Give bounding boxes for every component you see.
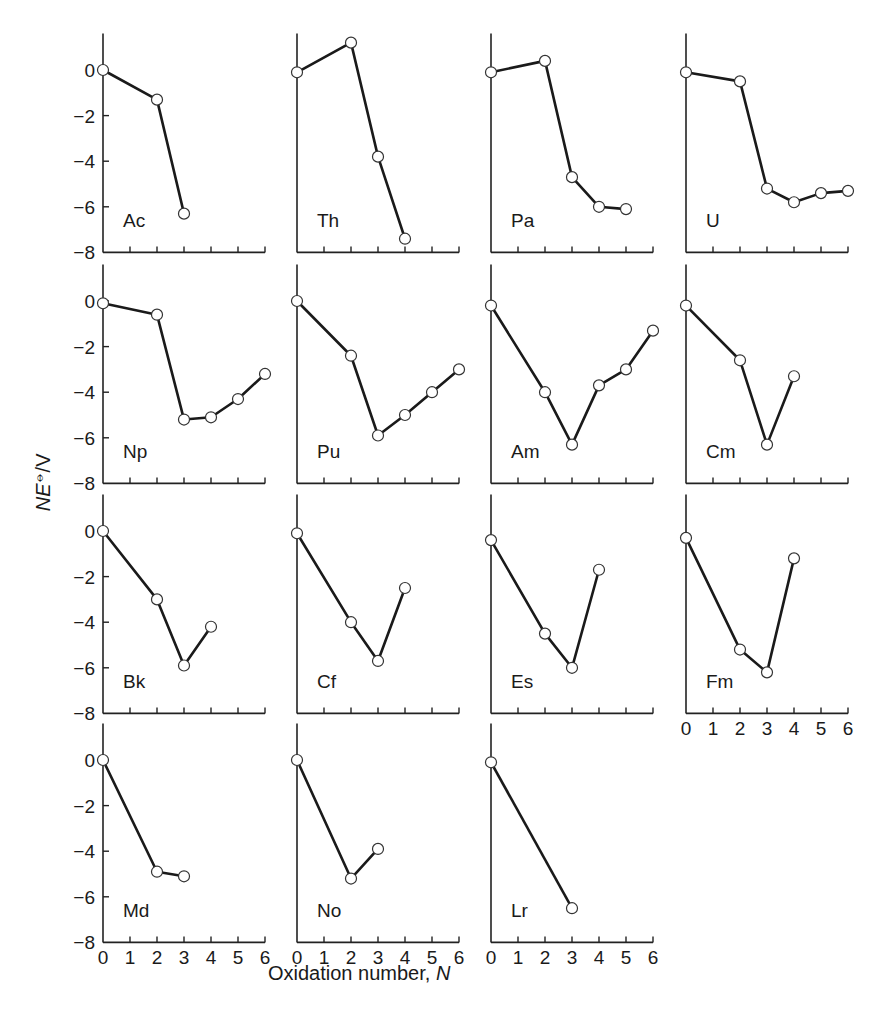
- data-point: [292, 755, 303, 766]
- panel-lr: 0123456Lr: [486, 724, 659, 969]
- data-point: [454, 364, 465, 375]
- panel-u: U: [681, 34, 854, 253]
- element-label: Np: [123, 441, 147, 462]
- x-tick-label: 2: [152, 947, 163, 968]
- panel-cf: Cf: [292, 495, 460, 714]
- data-point: [152, 94, 163, 105]
- panel-bk: 0−2−4−6−8Bk: [73, 495, 265, 725]
- x-tick-label: 0: [486, 947, 497, 968]
- x-tick-label: 3: [762, 718, 773, 739]
- panel-pa: Pa: [486, 34, 654, 253]
- x-tick-label: 6: [454, 947, 465, 968]
- panel-ac: 0−2−4−6−8Ac: [73, 34, 265, 264]
- data-point: [486, 757, 497, 768]
- data-point: [594, 201, 605, 212]
- data-point: [540, 55, 551, 66]
- data-point: [400, 583, 411, 594]
- data-point: [843, 185, 854, 196]
- data-point: [735, 76, 746, 87]
- data-point: [260, 368, 271, 379]
- data-point: [762, 183, 773, 194]
- data-point: [648, 325, 659, 336]
- data-point: [206, 412, 217, 423]
- element-label: Pu: [317, 441, 340, 462]
- data-point: [486, 535, 497, 546]
- series-line: [103, 70, 184, 214]
- data-point: [98, 526, 109, 537]
- y-tick-label: −6: [73, 428, 95, 449]
- panel-th: Th: [292, 34, 460, 253]
- panel-np: 0−2−4−6−8Np: [73, 265, 270, 495]
- series-line: [297, 760, 378, 879]
- x-tick-label: 1: [125, 947, 136, 968]
- panel-md: 0−2−4−6−80123456Md: [73, 724, 270, 969]
- data-point: [98, 65, 109, 76]
- element-label: Ac: [123, 210, 145, 231]
- y-tick-label: −6: [73, 658, 95, 679]
- y-tick-label: −4: [73, 841, 95, 862]
- data-point: [735, 644, 746, 655]
- data-point: [789, 553, 800, 564]
- data-point: [292, 528, 303, 539]
- series-line: [491, 306, 653, 445]
- data-point: [346, 350, 357, 361]
- series-line: [686, 306, 794, 445]
- series-line: [297, 301, 459, 436]
- data-point: [621, 204, 632, 215]
- data-point: [373, 151, 384, 162]
- data-point: [373, 430, 384, 441]
- x-tick-label: 1: [513, 947, 524, 968]
- data-point: [179, 208, 190, 219]
- series-line: [491, 540, 599, 668]
- data-point: [762, 439, 773, 450]
- x-tick-label: 5: [816, 718, 827, 739]
- y-tick-label: 0: [84, 291, 95, 312]
- y-axis-label: NE⦵/V: [31, 453, 56, 511]
- y-tick-label: −2: [73, 106, 95, 127]
- data-point: [540, 628, 551, 639]
- y-tick-label: −4: [73, 612, 95, 633]
- y-tick-label: −2: [73, 796, 95, 817]
- data-point: [681, 532, 692, 543]
- x-axis-label: Oxidation number, N: [268, 962, 450, 985]
- frost-diagram-grid: 0−2−4−6−8AcThPaU0−2−4−6−8NpPuAmCm0−2−4−6…: [0, 0, 877, 1028]
- x-tick-label: 2: [540, 947, 551, 968]
- data-point: [373, 843, 384, 854]
- y-tick-label: 0: [84, 521, 95, 542]
- y-tick-label: 0: [84, 750, 95, 771]
- element-label: Pa: [511, 210, 535, 231]
- data-point: [681, 300, 692, 311]
- y-tick-label: −8: [73, 932, 95, 953]
- element-label: Lr: [511, 900, 529, 921]
- x-tick-label: 0: [98, 947, 109, 968]
- data-point: [179, 660, 190, 671]
- element-label: Md: [123, 900, 149, 921]
- x-tick-label: 0: [681, 718, 692, 739]
- data-point: [346, 873, 357, 884]
- element-label: No: [317, 900, 341, 921]
- x-tick-label: 1: [708, 718, 719, 739]
- y-tick-label: 0: [84, 60, 95, 81]
- data-point: [567, 662, 578, 673]
- panel-am: Am: [486, 265, 659, 484]
- data-point: [206, 621, 217, 632]
- element-label: U: [706, 210, 720, 231]
- data-point: [292, 296, 303, 307]
- y-tick-label: −2: [73, 337, 95, 358]
- data-point: [567, 172, 578, 183]
- x-tick-label: 4: [206, 947, 217, 968]
- data-point: [152, 866, 163, 877]
- series-line: [103, 760, 184, 876]
- data-point: [789, 371, 800, 382]
- y-tick-label: −8: [73, 473, 95, 494]
- element-label: Es: [511, 671, 533, 692]
- x-tick-label: 2: [735, 718, 746, 739]
- panel-pu: Pu: [292, 265, 465, 484]
- x-tick-label: 5: [233, 947, 244, 968]
- data-point: [567, 903, 578, 914]
- y-tick-label: −4: [73, 382, 95, 403]
- data-point: [179, 871, 190, 882]
- data-point: [816, 188, 827, 199]
- series-line: [491, 762, 572, 908]
- panel-fm: 0123456Fm: [681, 495, 854, 740]
